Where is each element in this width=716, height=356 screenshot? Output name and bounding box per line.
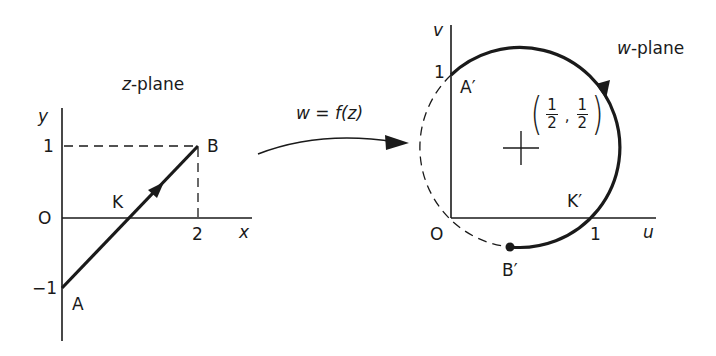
z-origin-label: O [38,210,51,227]
z-plane-title-var: z [122,74,131,94]
z-tick-x-2: 2 [192,226,203,243]
z-plane-figure [62,108,252,341]
z-tick-y-neg1: −1 [32,280,57,297]
center-v-fraction: 12 [577,98,589,131]
mapping-arrowhead-icon [385,135,409,150]
w-axis-v-label: v [433,22,443,39]
mapping-label: w = f(z) [296,105,363,122]
center-comma: , [565,103,570,125]
w-origin-label: O [430,226,443,243]
w-plane-title: w-plane [617,40,684,57]
z-point-B-label: B [207,138,219,155]
w-tick-v-1: 1 [434,64,445,81]
w-circle-center-label: ( 12 , 12 ) [528,92,606,136]
z-point-A-label: A [72,296,84,313]
center-close-paren: ) [592,92,604,136]
w-plane-title-rest: -plane [631,38,684,58]
w-point-B-prime-dot [506,243,515,252]
z-point-K-label: K [112,194,123,211]
w-point-A-prime-label: A′ [460,79,476,96]
z-axis-x-label: x [239,224,249,241]
w-axis-u-label: u [643,224,654,241]
z-plane-title: z-plane [122,76,184,93]
diagram-canvas [0,0,716,356]
z-axis-y-label: y [38,108,48,125]
z-path-segment-AB [62,146,198,288]
mapping-arrow [258,138,396,154]
z-plane-title-rest: -plane [131,74,184,94]
center-u-fraction: 12 [546,98,558,131]
w-circle-dashed-arc [420,75,510,247]
z-tick-y-1: 1 [43,138,54,155]
w-point-B-prime-label: B′ [502,262,518,279]
w-point-K-prime-label: K′ [567,193,582,210]
w-tick-u-1: 1 [590,226,601,243]
center-open-paren: ( [531,92,543,136]
w-plane-title-var: w [617,38,631,58]
